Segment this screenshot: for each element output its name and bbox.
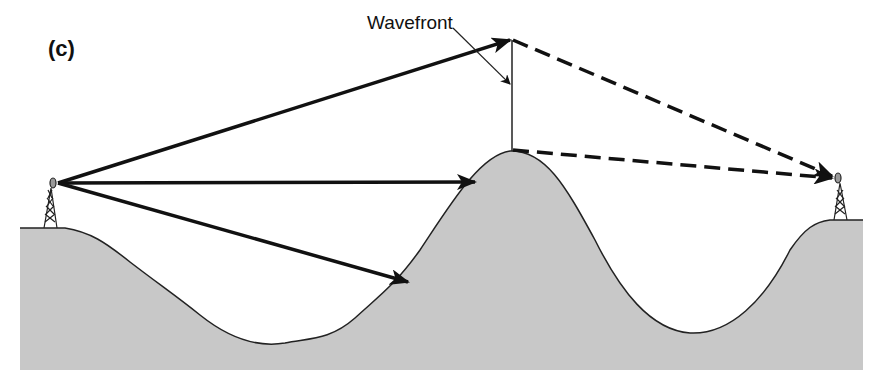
receiver-tower-icon [834, 173, 847, 220]
knife-edge-diffraction-diagram: (c) Wavefront [0, 0, 883, 382]
transmitter-tower-icon [44, 178, 57, 228]
diagram-canvas [0, 0, 883, 382]
ray-to-peak [58, 182, 475, 183]
ray-to-wavefront-top [58, 40, 510, 183]
panel-label: (c) [48, 36, 75, 62]
wavefront-label: Wavefront [367, 12, 453, 34]
